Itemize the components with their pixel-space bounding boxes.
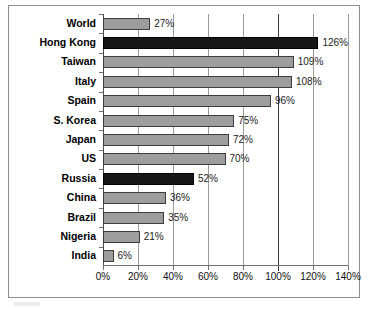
bar-row: 109% — [103, 56, 348, 68]
bar-row: 52% — [103, 173, 348, 185]
x-axis-tick-0 — [103, 266, 104, 270]
bar-row: 96% — [103, 95, 348, 107]
category-label: S. Korea — [53, 115, 96, 126]
bar-value-label: 27% — [154, 19, 174, 29]
category-label: US — [81, 153, 96, 164]
category-label: Japan — [66, 134, 96, 145]
bar-value-label: 72% — [233, 135, 253, 145]
x-axis-tick-120 — [313, 266, 314, 270]
x-axis-label: 60% — [198, 272, 218, 282]
bar-series: 27%126%109%108%96%75%72%70%52%36%35%21%6… — [103, 14, 348, 266]
bar — [103, 250, 114, 262]
x-axis-tick-140 — [348, 266, 349, 270]
bar-row: 70% — [103, 153, 348, 165]
plot-area: 27%126%109%108%96%75%72%70%52%36%35%21%6… — [103, 14, 348, 266]
bar-row: 108% — [103, 76, 348, 88]
category-label: Nigeria — [60, 231, 96, 242]
bar — [103, 173, 194, 185]
bar-value-label: 52% — [198, 174, 218, 184]
bar-row: 35% — [103, 212, 348, 224]
x-axis-label: 80% — [233, 272, 253, 282]
bar-value-label: 126% — [322, 38, 348, 48]
scan-artifact — [14, 302, 40, 306]
bar-value-label: 36% — [170, 193, 190, 203]
x-axis-label: 0% — [96, 272, 110, 282]
bar — [103, 56, 294, 68]
x-axis-tick-40 — [173, 266, 174, 270]
x-axis-label: 120% — [300, 272, 326, 282]
x-axis-label: 100% — [265, 272, 291, 282]
bar — [103, 18, 150, 30]
x-axis-label: 40% — [163, 272, 183, 282]
bar — [103, 231, 140, 243]
bar-value-label: 96% — [275, 96, 295, 106]
bar-row: 27% — [103, 18, 348, 30]
gridline-140 — [348, 14, 349, 266]
category-label: Italy — [75, 76, 96, 87]
bar-value-label: 108% — [296, 77, 322, 87]
x-axis-label: 140% — [335, 272, 361, 282]
bar — [103, 192, 166, 204]
category-label: Taiwan — [61, 56, 96, 67]
x-axis-tick-80 — [243, 266, 244, 270]
category-label: India — [71, 250, 96, 261]
bar — [103, 212, 164, 224]
category-label: Brazil — [67, 212, 96, 223]
x-axis-label: 20% — [128, 272, 148, 282]
bar — [103, 134, 229, 146]
bar-row: 6% — [103, 250, 348, 262]
bar — [103, 95, 271, 107]
chart-frame: WorldHong KongTaiwanItalySpainS. KoreaJa… — [8, 5, 360, 298]
x-axis: 0%20%40%60%80%100%120%140% — [103, 266, 348, 292]
bar-value-label: 75% — [238, 116, 258, 126]
category-label: Spain — [67, 95, 96, 106]
x-axis-tick-60 — [208, 266, 209, 270]
bar-value-label: 70% — [230, 154, 250, 164]
bar-row: 126% — [103, 37, 348, 49]
bar — [103, 115, 234, 127]
category-label: Russia — [62, 173, 96, 184]
x-axis-tick-20 — [138, 266, 139, 270]
bar — [103, 37, 318, 49]
bar-row: 36% — [103, 192, 348, 204]
bar-value-label: 109% — [298, 57, 324, 67]
bar — [103, 76, 292, 88]
bar-row: 75% — [103, 115, 348, 127]
category-label: Hong Kong — [39, 37, 96, 48]
bar-row: 72% — [103, 134, 348, 146]
bar — [103, 153, 226, 165]
bar-value-label: 35% — [168, 213, 188, 223]
category-axis: WorldHong KongTaiwanItalySpainS. KoreaJa… — [9, 14, 103, 266]
bar-value-label: 21% — [144, 232, 164, 242]
bar-value-label: 6% — [118, 251, 132, 261]
category-label: World — [66, 18, 96, 29]
category-label: China — [67, 192, 96, 203]
bar-row: 21% — [103, 231, 348, 243]
